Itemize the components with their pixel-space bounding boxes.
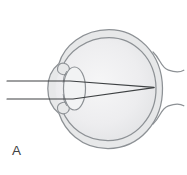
eye-diagram-figure: A	[0, 0, 187, 175]
panel-label: A	[12, 144, 22, 158]
lens	[64, 67, 86, 110]
eye-cross-section-illustration-icon	[0, 0, 187, 175]
